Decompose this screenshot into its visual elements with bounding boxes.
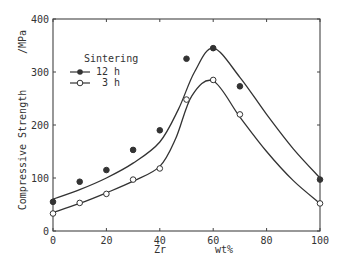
open-circle-marker-icon <box>157 166 163 172</box>
x-axis-label: Zr <box>154 244 166 255</box>
y-tick-label: 300 <box>31 67 49 78</box>
open-circle-marker-icon <box>237 112 243 118</box>
filled-circle-marker-icon <box>104 167 110 173</box>
filled-circle-marker-icon <box>210 45 216 51</box>
open-circle-marker-icon <box>50 211 56 217</box>
x-tick-label: 20 <box>100 235 112 246</box>
filled-circle-marker-icon <box>157 128 163 134</box>
legend-entry-3h: 3 h <box>102 77 120 88</box>
legend-title: Sintering <box>84 53 138 64</box>
plot-frame <box>53 19 320 231</box>
open-circle-marker-icon <box>77 200 83 206</box>
series-curves <box>53 48 320 212</box>
legend-marker-open-circle-icon <box>77 80 83 86</box>
legend-marker-filled-circle-icon <box>77 69 83 75</box>
x-tick-label: 80 <box>261 235 273 246</box>
filled-circle-marker-icon <box>130 147 136 153</box>
y-tick-label: 400 <box>31 14 49 25</box>
series-markers <box>50 45 323 216</box>
x-tick-label: 0 <box>50 235 56 246</box>
open-circle-marker-icon <box>210 77 216 83</box>
curve-12h <box>53 48 320 199</box>
open-circle-marker-icon <box>130 177 136 183</box>
filled-circle-marker-icon <box>50 199 56 205</box>
x-tick-label: 100 <box>311 235 329 246</box>
filled-circle-marker-icon <box>184 56 190 62</box>
open-circle-marker-icon <box>184 97 190 103</box>
filled-circle-marker-icon <box>237 84 243 90</box>
x-axis-unit: wt% <box>215 244 233 255</box>
legend-entry-12h: 12 h <box>96 66 120 77</box>
y-tick-label: 100 <box>31 173 49 184</box>
open-circle-marker-icon <box>104 191 110 197</box>
filled-circle-marker-icon <box>77 179 83 185</box>
y-tick-label: 200 <box>31 120 49 131</box>
chart: 0204060801000100200300400 Zr wt% Compres… <box>0 0 344 267</box>
legend: Sintering 12 h 3 h <box>70 53 138 88</box>
axis-ticks: 0204060801000100200300400 <box>31 14 329 246</box>
y-axis-label: Compressive Strength <box>17 90 28 210</box>
y-tick-label: 0 <box>43 226 49 237</box>
open-circle-marker-icon <box>317 201 323 207</box>
y-axis-unit: /MPa <box>17 30 28 54</box>
